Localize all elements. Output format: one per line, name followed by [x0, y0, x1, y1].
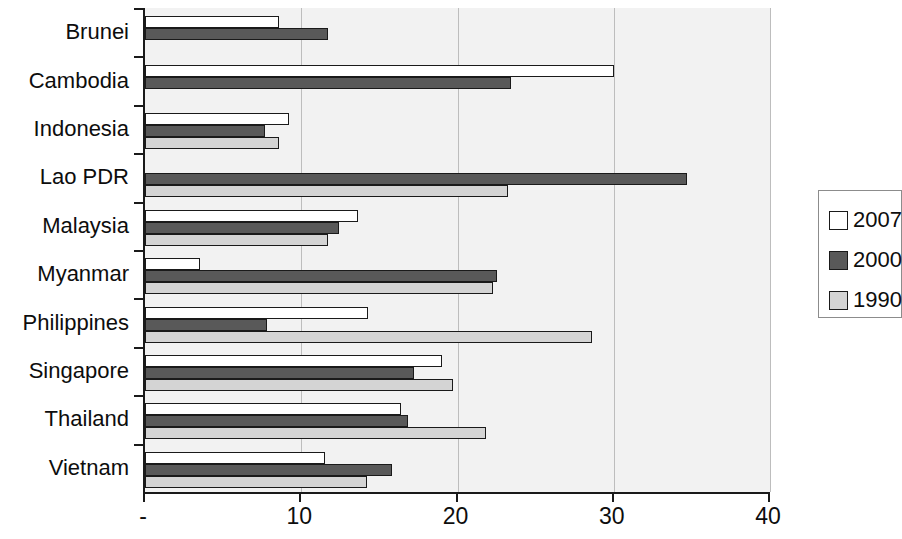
- bar-philippines-1990: [145, 331, 592, 343]
- bar-vietnam-2007: [145, 452, 325, 464]
- bar-malaysia-1990: [145, 234, 328, 246]
- bar-group: [145, 8, 770, 56]
- y-axis-label-vietnam: Vietnam: [49, 457, 129, 479]
- x-axis-tick-20: [456, 492, 458, 502]
- legend-item-2007[interactable]: 2007: [829, 203, 901, 237]
- x-axis-label-20: 20: [443, 505, 469, 528]
- legend-swatch-1990-icon: [829, 291, 848, 310]
- bar-group: [145, 250, 770, 298]
- bar-vietnam-2000: [145, 464, 392, 476]
- legend: 200720001990: [818, 190, 902, 318]
- bar-group: [145, 298, 770, 346]
- bar-group: [145, 153, 770, 201]
- bar-indonesia-2007: [145, 113, 289, 125]
- y-axis-tick: [134, 105, 144, 107]
- bar-singapore-2007: [145, 355, 442, 367]
- bar-lao-pdr-2000: [145, 173, 687, 185]
- y-axis-label-philippines: Philippines: [23, 312, 129, 334]
- plot-area: [143, 8, 770, 494]
- legend-label-2007: 2007: [853, 209, 902, 231]
- bar-vietnam-1990: [145, 476, 367, 488]
- x-axis-tick--: [143, 492, 145, 502]
- y-axis: BruneiCambodiaIndonesiaLao PDRMalaysiaMy…: [0, 8, 143, 492]
- y-axis-tick: [134, 298, 144, 300]
- bar-myanmar-2007: [145, 258, 200, 270]
- y-axis-label-indonesia: Indonesia: [34, 118, 129, 140]
- bar-group: [145, 56, 770, 104]
- y-axis-tick: [134, 202, 144, 204]
- y-axis-tick: [134, 444, 144, 446]
- bar-group: [145, 347, 770, 395]
- x-axis-tick-40: [768, 492, 770, 502]
- bar-malaysia-2000: [145, 222, 339, 234]
- legend-swatch-2007-icon: [829, 211, 848, 230]
- y-axis-tick: [134, 250, 144, 252]
- x-axis-tick-10: [299, 492, 301, 502]
- legend-swatch-2000-icon: [829, 251, 848, 270]
- bar-singapore-2000: [145, 367, 414, 379]
- y-axis-label-brunei: Brunei: [65, 21, 129, 43]
- bar-lao-pdr-1990: [145, 185, 508, 197]
- bar-malaysia-2007: [145, 210, 358, 222]
- bar-brunei-2007: [145, 16, 279, 28]
- bar-chart: BruneiCambodiaIndonesiaLao PDRMalaysiaMy…: [0, 0, 902, 539]
- bar-philippines-2000: [145, 319, 267, 331]
- bar-group: [145, 444, 770, 492]
- bar-group: [145, 105, 770, 153]
- y-axis-label-thailand: Thailand: [45, 408, 129, 430]
- y-axis-tick: [134, 8, 144, 10]
- bar-myanmar-1990: [145, 282, 493, 294]
- bar-brunei-2000: [145, 28, 328, 40]
- bar-indonesia-2000: [145, 125, 265, 137]
- y-axis-label-singapore: Singapore: [29, 360, 129, 382]
- y-axis-label-malaysia: Malaysia: [42, 215, 129, 237]
- bar-singapore-1990: [145, 379, 453, 391]
- y-axis-tick: [134, 56, 144, 58]
- bar-thailand-2007: [145, 403, 401, 415]
- gridline-40: [770, 8, 771, 492]
- bar-cambodia-2000: [145, 77, 511, 89]
- x-axis-labels: -10203040: [143, 505, 770, 539]
- y-axis-tick: [134, 395, 144, 397]
- bar-thailand-2000: [145, 415, 408, 427]
- bar-group: [145, 202, 770, 250]
- y-axis-label-cambodia: Cambodia: [29, 70, 129, 92]
- legend-label-1990: 1990: [853, 289, 902, 311]
- y-axis-label-lao-pdr: Lao PDR: [40, 166, 129, 188]
- legend-item-1990[interactable]: 1990: [829, 283, 901, 317]
- bar-myanmar-2000: [145, 270, 497, 282]
- bar-cambodia-2007: [145, 65, 614, 77]
- bar-philippines-2007: [145, 307, 368, 319]
- x-axis-label-10: 10: [286, 505, 312, 528]
- y-axis-tick: [134, 347, 144, 349]
- x-axis-label-40: 40: [755, 505, 781, 528]
- bar-indonesia-1990: [145, 137, 279, 149]
- legend-label-2000: 2000: [853, 249, 902, 271]
- x-axis-label--: -: [139, 505, 147, 528]
- bar-group: [145, 395, 770, 443]
- x-axis-tick-30: [612, 492, 614, 502]
- y-axis-tick: [134, 153, 144, 155]
- x-axis-label-30: 30: [599, 505, 625, 528]
- legend-item-2000[interactable]: 2000: [829, 243, 901, 277]
- bar-thailand-1990: [145, 427, 486, 439]
- y-axis-label-myanmar: Myanmar: [37, 263, 129, 285]
